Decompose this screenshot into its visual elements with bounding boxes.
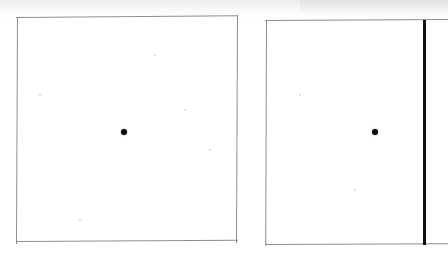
scanner-shadow-band-right: [300, 0, 448, 14]
scan-page: [0, 0, 448, 254]
left-panel[interactable]: [16, 15, 238, 242]
right-panel-top-edge: [265, 19, 448, 21]
right-panel-left-edge: [265, 20, 267, 246]
left-panel-bottom-edge: [16, 240, 238, 242]
right-panel-fold-line: [423, 20, 426, 245]
left-panel-center-dot: [121, 129, 127, 135]
right-panel-center-dot: [372, 129, 378, 135]
right-panel[interactable]: [265, 18, 448, 246]
left-panel-top-edge: [16, 15, 238, 18]
left-panel-right-edge: [236, 15, 238, 243]
left-panel-left-edge: [16, 17, 18, 244]
right-panel-bottom-edge: [265, 243, 448, 245]
